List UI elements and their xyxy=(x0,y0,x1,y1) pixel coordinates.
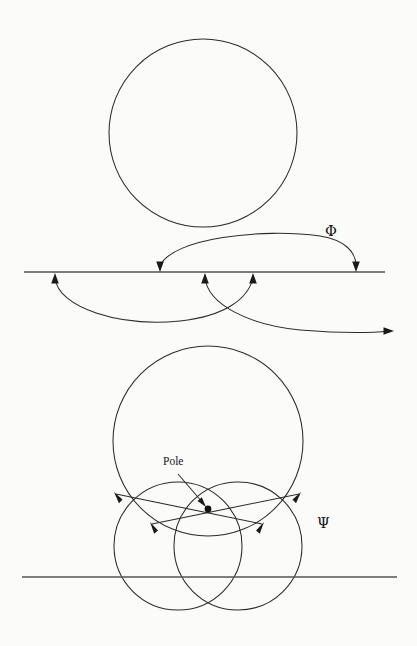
pole-point xyxy=(205,506,212,513)
upper-lower-left-arc xyxy=(55,278,253,322)
psi-right-arrowhead xyxy=(293,492,302,503)
phi-label: Φ xyxy=(325,224,337,239)
lower-right-circle xyxy=(174,482,302,610)
phi-right-arrowhead xyxy=(352,262,360,273)
psi-label: Ψ xyxy=(317,516,330,531)
pole-pointer-line xyxy=(178,474,203,503)
figure-canvas: Φ Ψ Pole xyxy=(0,0,417,646)
psi-left-arrowhead xyxy=(114,492,123,503)
chord-left-to-right xyxy=(116,494,262,524)
phi-left-arrowhead xyxy=(156,262,164,273)
diagram-svg xyxy=(0,0,417,646)
chord-right-to-left xyxy=(152,494,299,524)
lower-left-circle xyxy=(114,482,242,610)
upper-panel xyxy=(24,39,394,335)
lower-panel xyxy=(22,346,397,610)
pole-label: Pole xyxy=(163,456,183,468)
upper-baseline-arrowhead-3 xyxy=(249,273,257,284)
upper-main-circle xyxy=(109,39,297,227)
upper-exit-arrowhead xyxy=(384,327,395,335)
upper-baseline-arrowhead-1 xyxy=(51,273,59,284)
upper-baseline-arrowhead-2 xyxy=(201,273,209,284)
